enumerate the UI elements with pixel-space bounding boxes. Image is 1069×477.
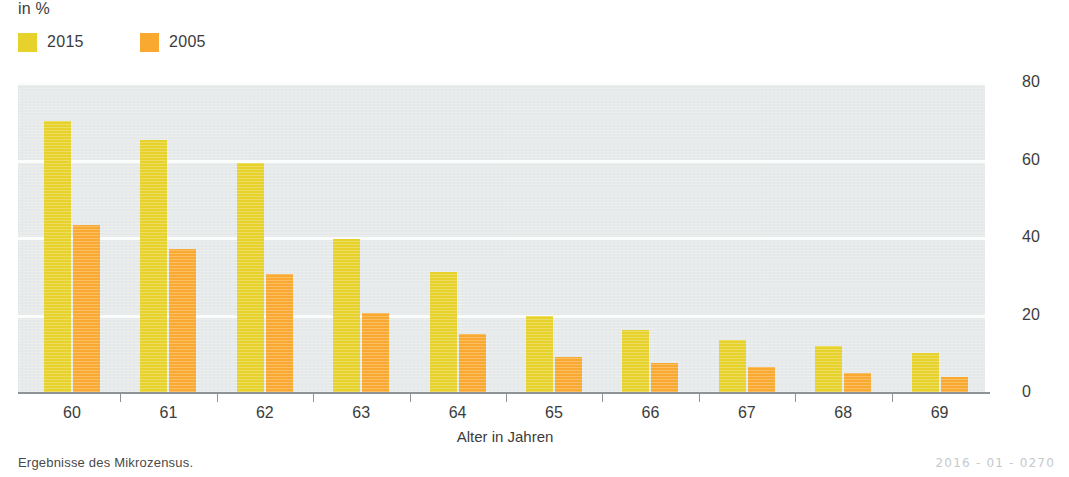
bar-group-age-67 [719, 82, 777, 392]
bar-2015-age-61[interactable] [140, 140, 167, 392]
legend-label-2015: 2015 [47, 33, 84, 51]
x-tick-mark-7 [699, 394, 700, 402]
bar-2015-age-66[interactable] [622, 330, 649, 392]
x-tick-label-60: 60 [43, 404, 101, 422]
x-tick-label-65: 65 [525, 404, 583, 422]
bar-2015-age-69[interactable] [912, 353, 939, 392]
legend-swatch-2005 [140, 33, 159, 52]
x-tick-mark-4 [410, 394, 411, 402]
bar-2015-age-60[interactable] [44, 121, 71, 392]
x-tick-mark-1 [120, 394, 121, 402]
y-tick-label-60: 60 [1022, 151, 1062, 169]
document-code: 2016 - 01 - 0270 [936, 456, 1055, 470]
x-tick-mark-8 [795, 394, 796, 402]
source-note: Ergebnisse des Mikrozensus. [18, 455, 193, 470]
y-tick-label-80: 80 [1022, 73, 1062, 91]
bar-group-age-61 [140, 82, 198, 392]
x-axis-title: Alter in Jahren [0, 428, 1010, 445]
y-tick-label-20: 20 [1022, 306, 1062, 324]
x-tick-mark-5 [506, 394, 507, 402]
bar-2015-age-63[interactable] [333, 239, 360, 392]
bar-2005-age-62[interactable] [266, 274, 293, 392]
x-tick-label-63: 63 [332, 404, 390, 422]
x-tick-mark-3 [313, 394, 314, 402]
x-axis-line [18, 392, 990, 394]
x-tick-label-61: 61 [139, 404, 197, 422]
bar-group-age-62 [237, 82, 295, 392]
bar-2015-age-62[interactable] [237, 163, 264, 392]
bar-2005-age-67[interactable] [748, 367, 775, 392]
y-tick-label-0: 0 [1022, 383, 1062, 401]
plot-area [18, 82, 985, 392]
bar-2015-age-65[interactable] [526, 316, 553, 392]
x-tick-label-66: 66 [621, 404, 679, 422]
bar-2015-age-64[interactable] [430, 272, 457, 392]
x-tick-label-68: 68 [814, 404, 872, 422]
x-tick-mark-6 [602, 394, 603, 402]
bar-2005-age-68[interactable] [844, 373, 871, 392]
bar-group-age-66 [622, 82, 680, 392]
legend-item-2015[interactable]: 2015 [18, 30, 84, 54]
bar-2005-age-65[interactable] [555, 357, 582, 392]
bar-group-age-65 [526, 82, 584, 392]
bar-group-age-68 [815, 82, 873, 392]
bars-layer [18, 82, 985, 392]
bar-2005-age-66[interactable] [651, 363, 678, 392]
bar-2005-age-61[interactable] [169, 249, 196, 392]
legend-swatch-2015 [18, 33, 37, 52]
x-tick-label-67: 67 [718, 404, 776, 422]
x-tick-label-64: 64 [429, 404, 487, 422]
x-tick-label-69: 69 [911, 404, 969, 422]
bar-2015-age-67[interactable] [719, 340, 746, 392]
bar-2005-age-60[interactable] [73, 225, 100, 392]
x-tick-label-62: 62 [236, 404, 294, 422]
legend-label-2005: 2005 [169, 33, 206, 51]
bar-group-age-64 [430, 82, 488, 392]
bar-2005-age-69[interactable] [941, 377, 968, 393]
bar-group-age-60 [44, 82, 102, 392]
bar-2005-age-64[interactable] [459, 334, 486, 392]
x-tick-mark-9 [892, 394, 893, 402]
y-tick-label-40: 40 [1022, 228, 1062, 246]
bar-2015-age-68[interactable] [815, 346, 842, 393]
bar-group-age-69 [912, 82, 970, 392]
x-tick-mark-2 [217, 394, 218, 402]
bar-2005-age-63[interactable] [362, 313, 389, 392]
unit-label: in % [18, 0, 50, 18]
legend-item-2005[interactable]: 2005 [140, 30, 206, 54]
chart-figure: in % 20152005 60616263646566676869 Alter… [0, 0, 1069, 477]
bar-group-age-63 [333, 82, 391, 392]
